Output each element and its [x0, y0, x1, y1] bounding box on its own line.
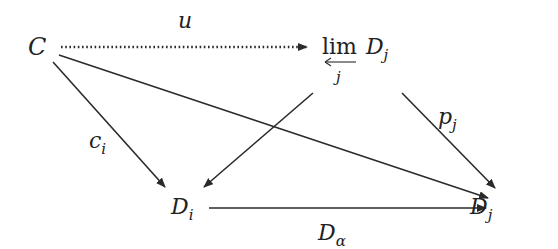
node-c: C [28, 35, 46, 59]
lim-operator: lim [322, 34, 357, 59]
lim-object-subscript: j [384, 46, 389, 64]
label-d-alpha-main: D [318, 220, 336, 245]
label-p-j-sub: j [452, 116, 457, 134]
lim-object: D [366, 34, 384, 59]
lim-index: j [336, 70, 341, 85]
arrow-lim-to-di [204, 93, 313, 187]
label-c-i-main: c [89, 128, 101, 153]
node-dj-label: D [470, 194, 488, 219]
node-c-label: C [28, 33, 46, 61]
label-d-alpha: Dα [318, 222, 346, 249]
node-dj-subscript: j [488, 206, 493, 224]
label-d-alpha-sub: α [336, 232, 346, 249]
node-di: Di [171, 196, 193, 223]
node-dj: Dj [470, 196, 492, 223]
label-p-j: pj [438, 106, 457, 133]
label-p-j-main: p [438, 104, 452, 129]
label-u: u [178, 10, 192, 32]
arrow-c-i [53, 62, 165, 187]
node-di-subscript: i [189, 206, 194, 224]
label-c-i: ci [89, 130, 106, 157]
label-c-i-sub: i [101, 140, 106, 158]
node-limit: lim Dj [322, 36, 388, 63]
node-di-label: D [171, 194, 189, 219]
